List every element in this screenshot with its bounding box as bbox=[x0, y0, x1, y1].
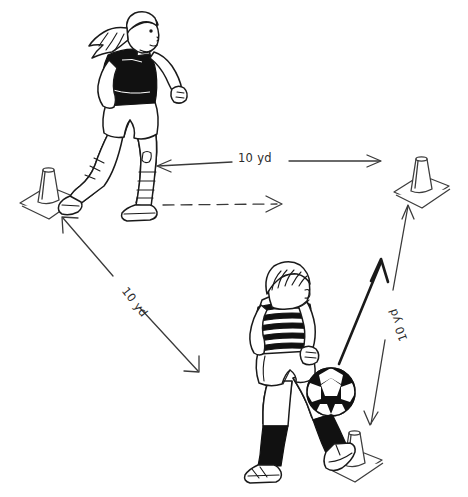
player-girl bbox=[58, 12, 187, 221]
path-arrow-solid-bold bbox=[339, 259, 388, 364]
cone-right bbox=[394, 157, 450, 208]
soccer-ball bbox=[306, 368, 356, 416]
label-distance-top: 10 yd bbox=[238, 151, 272, 165]
diagram-illustration: .ln{fill:none;stroke:#3a3a3a;stroke-widt… bbox=[0, 0, 468, 497]
path-arrow-dashed bbox=[163, 196, 282, 212]
drill-diagram-canvas: .ln{fill:none;stroke:#3a3a3a;stroke-widt… bbox=[0, 0, 468, 497]
